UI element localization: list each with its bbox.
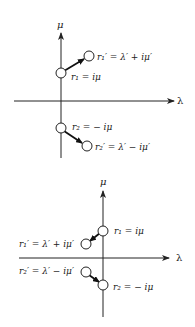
lambda-axis-label: λ — [176, 252, 183, 263]
r2-shift-arrow — [64, 131, 82, 143]
root-locus-figure: μ λ r₁ = iμ r₁′ = λ′ + iμ′ r₂ = − iμ r₂′… — [0, 0, 195, 327]
r1-root-marker — [98, 226, 108, 236]
r1-root-marker — [56, 68, 66, 78]
r2-root-marker — [98, 280, 108, 290]
r1-shift-arrow — [90, 233, 100, 241]
r2-root-marker — [56, 123, 66, 133]
r2-prime-root-marker — [81, 267, 91, 277]
lambda-axis-label: λ — [177, 95, 184, 106]
r1-prime-root-marker — [84, 51, 94, 61]
r2-prime-label: r₂′ = λ′ − iμ′ — [19, 266, 74, 276]
r2-prime-root-marker — [82, 141, 92, 151]
r2-label: r₂ = − iμ — [113, 282, 153, 292]
r1-prime-label: r₁′ = λ′ + iμ′ — [97, 52, 152, 62]
r2-prime-label: r₂′ = λ′ − iμ′ — [95, 142, 150, 152]
bottom-diagram: μ λ r₁ = iμ r₁′ = λ′ + iμ′ r₂ = − iμ r₂′… — [19, 176, 183, 317]
r2-shift-arrow — [89, 275, 99, 282]
top-diagram: μ λ r₁ = iμ r₁′ = λ′ + iμ′ r₂ = − iμ r₂′… — [14, 19, 184, 158]
r1-prime-label: r₁′ = λ′ + iμ′ — [19, 239, 74, 249]
r1-shift-arrow — [64, 59, 84, 71]
r2-label: r₂ = − iμ — [72, 122, 112, 132]
r1-prime-root-marker — [81, 239, 91, 249]
mu-axis-label: μ — [57, 19, 64, 30]
r1-label: r₁ = iμ — [71, 72, 101, 82]
mu-axis-label: μ — [100, 176, 107, 187]
r1-label: r₁ = iμ — [114, 226, 144, 236]
